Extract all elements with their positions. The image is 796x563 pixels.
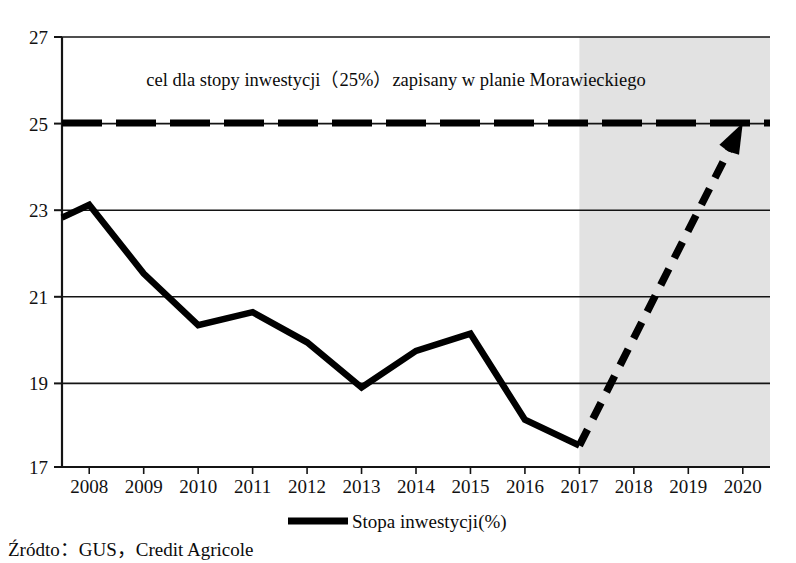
chart-canvas: 27 25 23 21 19 17 cel dla stopy inwestyc… bbox=[0, 0, 796, 563]
source-note: Źródto：GUS，Credit Agricole bbox=[8, 539, 253, 560]
x-tick-label-2020: 2020 bbox=[724, 476, 762, 497]
x-axis-tick-labels: 2008200920102011201220132014201520162017… bbox=[70, 476, 762, 497]
x-tick-label-2009: 2009 bbox=[125, 476, 163, 497]
x-tick-label-2019: 2019 bbox=[669, 476, 707, 497]
y-axis bbox=[54, 37, 62, 467]
investment-rate-chart: 27 25 23 21 19 17 cel dla stopy inwestyc… bbox=[0, 0, 796, 563]
x-tick-label-2012: 2012 bbox=[288, 476, 326, 497]
y-tick-label-19: 19 bbox=[29, 373, 48, 394]
x-tick-label-2014: 2014 bbox=[397, 476, 436, 497]
x-tick-label-2008: 2008 bbox=[70, 476, 108, 497]
target-annotation-label: cel dla stopy inwestycji（25%）zapisany w … bbox=[146, 70, 645, 90]
investment-rate-series-line bbox=[62, 205, 579, 446]
y-tick-label-17: 17 bbox=[29, 457, 48, 478]
y-tick-label-25: 25 bbox=[29, 114, 48, 135]
y-axis-tick-labels: 27 25 23 21 19 17 bbox=[29, 27, 48, 478]
y-tick-label-23: 23 bbox=[29, 200, 48, 221]
x-tick-label-2013: 2013 bbox=[343, 476, 381, 497]
chart-legend: Stopa inwestycji(%) bbox=[288, 511, 507, 533]
x-tick-label-2015: 2015 bbox=[451, 476, 489, 497]
x-tick-label-2016: 2016 bbox=[506, 476, 544, 497]
legend-label-investment-rate: Stopa inwestycji(%) bbox=[352, 511, 507, 533]
y-tick-label-21: 21 bbox=[29, 287, 48, 308]
x-tick-label-2017: 2017 bbox=[560, 476, 598, 497]
x-tick-label-2018: 2018 bbox=[615, 476, 653, 497]
y-tick-label-27: 27 bbox=[29, 27, 48, 48]
x-tick-label-2011: 2011 bbox=[234, 476, 271, 497]
x-tick-label-2010: 2010 bbox=[179, 476, 217, 497]
